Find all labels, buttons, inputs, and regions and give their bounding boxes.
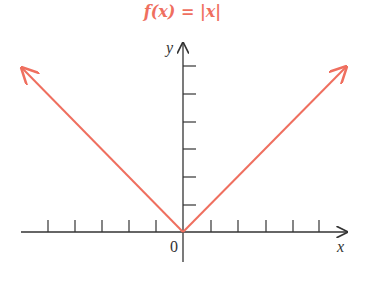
x-axis-label: x — [336, 238, 344, 255]
origin-label: 0 — [170, 238, 178, 255]
y-axis-ticks — [183, 66, 196, 205]
y-axis-label: y — [164, 39, 174, 57]
chart-canvas: y x 0 — [0, 0, 365, 282]
